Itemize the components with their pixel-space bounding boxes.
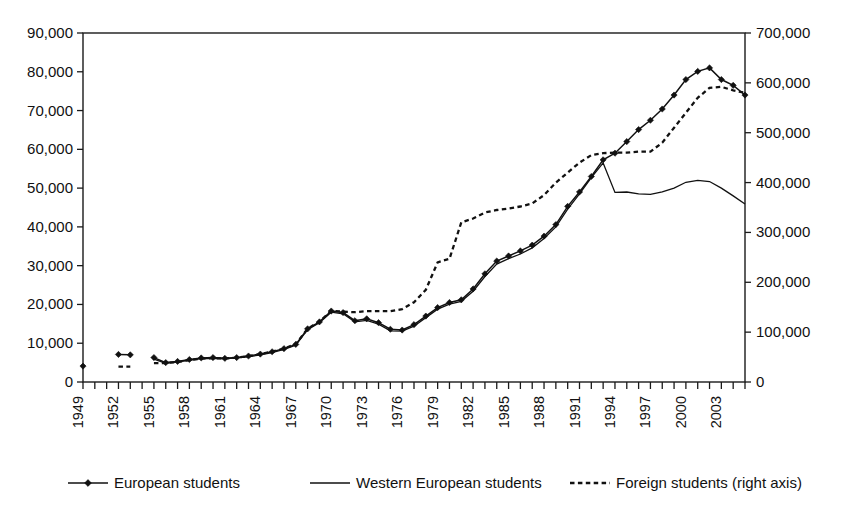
series-foreign-students-line — [154, 87, 745, 363]
x-axis-label: 2003 — [708, 396, 724, 428]
series-european-students-marker — [127, 352, 133, 358]
y-axis-label: 60,000 — [27, 140, 73, 157]
series-european-students-marker — [80, 363, 86, 369]
x-axis-label: 1967 — [283, 396, 299, 428]
y-axis-label: 70,000 — [27, 102, 73, 119]
x-axis-label: 1949 — [70, 396, 86, 428]
y-axis-label: 10,000 — [27, 334, 73, 351]
x-axis-label: 1997 — [637, 396, 653, 428]
x-axis-label: 1979 — [425, 396, 441, 428]
y-axis-label: 0 — [65, 373, 73, 390]
x-axis-label: 1961 — [212, 396, 228, 428]
y2-axis-label: 400,000 — [756, 174, 810, 191]
legend-marker-european-students — [85, 480, 92, 487]
x-axis-label: 1952 — [105, 396, 121, 428]
x-axis-label: 2000 — [673, 396, 689, 428]
x-axis-label: 1955 — [141, 396, 157, 428]
chart-container: 010,00020,00030,00040,00050,00060,00070,… — [0, 0, 857, 511]
x-axis-label: 1991 — [567, 396, 583, 428]
x-axis-label: 1985 — [496, 396, 512, 428]
y-axis-label: 40,000 — [27, 218, 73, 235]
y2-axis-label: 0 — [756, 373, 764, 390]
legend-label-european-students: European students — [114, 474, 240, 491]
x-axis-label: 1976 — [389, 396, 405, 428]
y2-axis-label: 700,000 — [756, 24, 810, 41]
line-chart: 010,00020,00030,00040,00050,00060,00070,… — [0, 0, 857, 511]
y-axis-label: 90,000 — [27, 24, 73, 41]
y-axis-label: 80,000 — [27, 63, 73, 80]
plot-frame — [83, 33, 745, 382]
x-axis-label: 1970 — [318, 396, 334, 428]
y2-axis-label: 200,000 — [756, 273, 810, 290]
legend-label-foreign-students: Foreign students (right axis) — [616, 474, 802, 491]
y2-axis-label: 100,000 — [756, 323, 810, 340]
y2-axis-label: 600,000 — [756, 74, 810, 91]
x-axis-label: 1988 — [531, 396, 547, 428]
x-axis-label: 1982 — [460, 396, 476, 428]
y2-axis-label: 500,000 — [756, 124, 810, 141]
y-axis-label: 20,000 — [27, 295, 73, 312]
legend-label-western-european-students: Western European students — [356, 474, 542, 491]
y-axis-label: 50,000 — [27, 179, 73, 196]
y-axis-label: 30,000 — [27, 257, 73, 274]
x-axis-label: 1964 — [247, 396, 263, 428]
series-western-european-students-line — [154, 163, 745, 363]
series-european-students-marker — [115, 351, 121, 357]
x-axis-label: 1973 — [354, 396, 370, 428]
x-axis-label: 1994 — [602, 396, 618, 428]
x-axis-label: 1958 — [176, 396, 192, 428]
series-european-students-line — [154, 68, 745, 363]
y2-axis-label: 300,000 — [756, 223, 810, 240]
